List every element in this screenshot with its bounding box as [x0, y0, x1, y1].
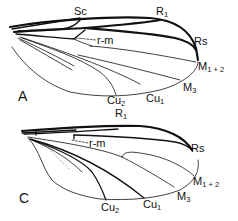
- wing-c-vein-rm-leader: [72, 140, 88, 143]
- panel-label-c: C: [19, 190, 29, 206]
- wing-a-vein-anal-1: [18, 38, 74, 66]
- wing-a-vein-m-stem: [74, 39, 92, 46]
- wing-c-vein-m12: [122, 152, 194, 176]
- label-m12-c: M1 + 2: [193, 175, 219, 189]
- label-sc-a: Sc: [74, 5, 87, 17]
- wing-c-vein-m3: [122, 157, 174, 187]
- label-cu1-a: Cu1: [146, 92, 164, 106]
- label-cu2-a: Cu2: [107, 94, 125, 108]
- label-m3-c: M3: [177, 190, 190, 204]
- wing-c-outline: [28, 138, 198, 200]
- wing-c-vein-m-stem: [28, 137, 122, 157]
- wing-a-outline: [12, 47, 198, 96]
- wing-a-vein-anal-2: [20, 40, 72, 70]
- label-rs-a: Rs: [194, 35, 208, 47]
- wing-venation-figure: Sc R1 Rs r-m M1 + 2 M3 Cu2 Cu1 A: [0, 0, 238, 221]
- label-rs-c: Rs: [191, 142, 205, 154]
- label-cu1-c: Cu1: [143, 198, 161, 212]
- wing-a-vein-m12: [90, 46, 196, 62]
- label-cu2-c: Cu2: [101, 201, 119, 215]
- wing-c-vein-anal: [34, 141, 82, 172]
- wing-a: Sc R1 Rs r-m M1 + 2 M3 Cu2 Cu1 A: [10, 5, 224, 108]
- label-m3-a: M3: [183, 81, 196, 95]
- label-r1-c: R1: [115, 107, 127, 121]
- label-r1-a: R1: [156, 5, 168, 19]
- label-rm-c: r-m: [89, 137, 106, 149]
- label-rm-a: r-m: [97, 34, 114, 46]
- wing-a-vein-r1: [14, 20, 160, 32]
- label-m12-a: M1 + 2: [198, 60, 224, 74]
- wing-a-vein-rm-leader: [76, 38, 96, 40]
- wing-c: R1 Rs r-m M1 + 2 M3 Cu2 Cu1 C: [19, 107, 219, 215]
- wing-c-vein-cu1: [30, 139, 144, 198]
- panel-label-a: A: [18, 88, 28, 104]
